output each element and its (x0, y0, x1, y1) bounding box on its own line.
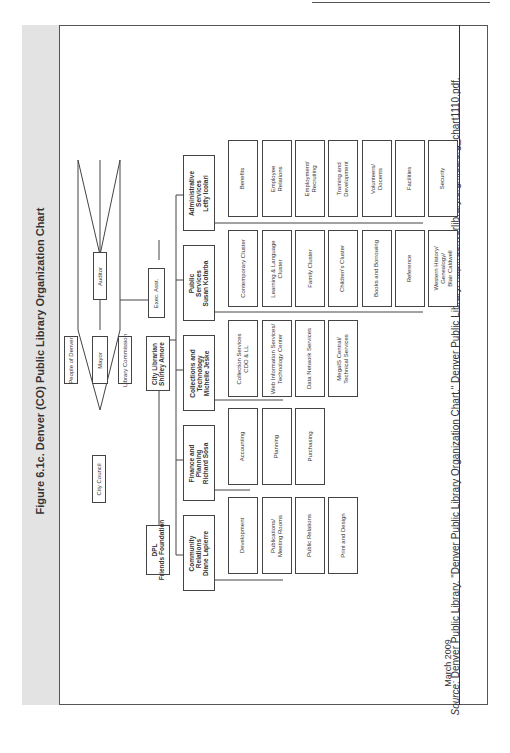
people-of-denver-box: People of Denver (64, 336, 78, 384)
unit-development: Development (228, 497, 258, 574)
unit-western-history: Western History/ Genealogy/ Blair Caldwe… (428, 230, 458, 307)
unit-training-development: Training and Development (328, 140, 358, 217)
unit-contemporary-cluster: Contemporary Cluster (228, 230, 258, 307)
unit-purchasing: Purchasing (295, 408, 325, 485)
auditor-box: Auditor (93, 252, 107, 300)
unit-data-network-services: Data Network Services (295, 320, 325, 397)
unit-reference: Reference (395, 230, 425, 307)
unit-security: Security (428, 140, 458, 217)
unit-megais-central: MegaIS Central/ Technical Services (328, 320, 358, 397)
unit-facilities: Facilities (395, 140, 425, 217)
unit-childrens-cluster: Children's Cluster (328, 230, 358, 307)
exec-asst-box: Exec. Asst. (148, 268, 165, 318)
city-council-box: City Council (92, 455, 106, 503)
unit-employee-relations: Employee Relations (262, 140, 292, 217)
dept-finance-planning: Finance and Planning Richard Sosa (183, 425, 215, 501)
unit-employment-recruiting: Employment/ Recruiting (295, 140, 325, 217)
dept-administrative-services: Administrative Services Letty Icolari (183, 155, 215, 231)
dept-public-services: Public Services Susan Kotarba (183, 245, 215, 321)
unit-benefits: Benefits (228, 140, 258, 217)
friends-foundation-box: DPL Friends Foundation (146, 525, 170, 575)
unit-publications-meeting-rooms: Publications/ Meeting Rooms (262, 497, 292, 574)
mayor-box: Mayor (92, 336, 108, 384)
library-commission-box: Library Commission (118, 336, 132, 384)
dept-community-relations: Community Relations Diane Lapierre (183, 515, 215, 591)
dept-collections-technology: Collections and Technology Michelle Jesk… (183, 335, 215, 411)
unit-books-borrowing: Books and Borrowing (362, 230, 392, 307)
unit-family-cluster: Family Cluster (295, 230, 325, 307)
city-librarian-box: City Librarian Shirley Amore (146, 336, 170, 391)
unit-learning-language-cluster: Learning & Language Cluster (262, 230, 292, 307)
unit-volunteers-docents: Volunteers/ Docents (362, 140, 392, 217)
unit-collection-services: Collection Services CDO & LL (228, 320, 258, 397)
unit-print-design: Print and Design (328, 497, 358, 574)
unit-planning: Planning (262, 408, 292, 485)
unit-public-relations: Public Relations (295, 497, 325, 574)
unit-web-information-services: Web Information Services/ Technology Cen… (262, 320, 292, 397)
unit-accounting: Accounting (228, 408, 258, 485)
